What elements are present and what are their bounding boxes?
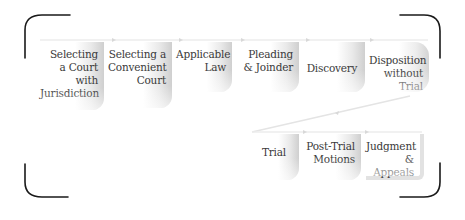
arrow-icon xyxy=(335,111,339,115)
stage-discovery: Discovery xyxy=(303,42,365,92)
stage-label: Post-Trial xyxy=(305,140,355,153)
stage-judgment-appeals: Judgment & Appeals xyxy=(366,134,424,180)
stage-post-trial-motions: Post-Trial Motions xyxy=(305,134,361,180)
stage-label: Applicable xyxy=(176,48,226,61)
stage-selecting-convenient-court: Selecting a Convenient Court xyxy=(108,42,172,108)
frame-and-connectors xyxy=(0,0,465,220)
diagonal-connector-line xyxy=(252,96,410,132)
stage-trial: Trial xyxy=(253,134,299,180)
stage-label: Jurisdiction xyxy=(40,87,98,100)
stage-label: Convenient xyxy=(108,61,166,74)
stage-selecting-court-with-jurisdiction: Selecting a Court with Jurisdiction xyxy=(40,42,104,110)
stage-pleading-joinder: Pleading & Joinder xyxy=(236,42,299,92)
stage-label: without Trial xyxy=(369,67,423,93)
bracket-bottom-left xyxy=(25,164,68,197)
stage-label: Law xyxy=(176,61,226,74)
stage-disposition-without-trial: Disposition without Trial xyxy=(369,42,429,92)
stage-label: & Joinder xyxy=(236,61,293,74)
stage-label: Selecting a xyxy=(108,48,166,61)
stage-label: Disposition xyxy=(369,54,423,67)
stage-label: Trial xyxy=(253,146,295,159)
stage-label: Motions xyxy=(305,153,355,166)
stage-label: a Court xyxy=(40,61,98,74)
litigation-stages-diagram: Selecting a Court with Jurisdiction Sele… xyxy=(0,0,465,220)
stage-label: & Appeals xyxy=(366,153,414,179)
stage-label: Pleading xyxy=(236,48,293,61)
stage-label: Selecting xyxy=(40,48,98,61)
stage-label: with xyxy=(40,74,98,87)
stage-label: Judgment xyxy=(366,140,414,153)
stage-label: Discovery xyxy=(303,62,361,75)
stage-label: Court xyxy=(108,74,166,87)
stage-applicable-law: Applicable Law xyxy=(176,42,232,92)
